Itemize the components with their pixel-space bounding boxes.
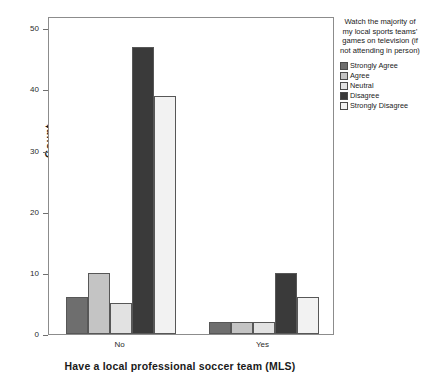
y-tick-mark [43, 90, 48, 91]
legend-swatch-icon [340, 102, 348, 110]
plot-area [48, 17, 334, 335]
y-tick-mark [43, 274, 48, 275]
legend-swatch-icon [340, 72, 348, 80]
bar-chart: Count 01020304050 NoYes Have a local pro… [0, 0, 422, 384]
y-tick: 30 [0, 152, 48, 153]
bar [110, 303, 132, 334]
legend-item: Strongly Disagree [340, 101, 420, 110]
x-category-label: No [80, 340, 160, 349]
legend: Watch the majority of my local sports te… [340, 17, 420, 110]
legend-swatch-icon [340, 92, 348, 100]
legend-title: Watch the majority of my local sports te… [340, 17, 420, 55]
legend-item: Strongly Agree [340, 61, 420, 70]
bar [132, 47, 154, 334]
legend-swatch-icon [340, 82, 348, 90]
y-tick: 10 [0, 274, 48, 275]
y-tick-label: 40 [30, 84, 39, 95]
bar [88, 273, 110, 334]
bar [297, 297, 319, 334]
legend-items: Strongly AgreeAgreeNeutralDisagreeStrong… [340, 61, 420, 110]
y-tick: 50 [0, 29, 48, 30]
y-tick-label: 20 [30, 207, 39, 218]
y-tick: 20 [0, 213, 48, 214]
y-tick-label: 50 [30, 23, 39, 34]
y-tick-label: 10 [30, 268, 39, 279]
x-axis-title: Have a local professional soccer team (M… [20, 360, 340, 372]
bar [275, 273, 297, 334]
y-tick-mark [43, 29, 48, 30]
legend-item-label: Strongly Disagree [350, 101, 408, 110]
legend-item: Neutral [340, 81, 420, 90]
bar [209, 322, 231, 334]
bar [253, 322, 275, 334]
legend-item-label: Neutral [350, 81, 374, 90]
y-tick: 40 [0, 90, 48, 91]
y-tick: 0 [0, 335, 48, 336]
bar [154, 96, 176, 335]
y-tick-label: 0 [35, 329, 39, 340]
y-tick-label: 30 [30, 146, 39, 157]
y-tick-mark [43, 152, 48, 153]
legend-swatch-icon [340, 62, 348, 70]
legend-item: Disagree [340, 91, 420, 100]
bar [66, 297, 88, 334]
y-tick-mark [43, 213, 48, 214]
legend-item: Agree [340, 71, 420, 80]
bar [231, 322, 253, 334]
x-category-label: Yes [223, 340, 303, 349]
legend-item-label: Strongly Agree [350, 61, 398, 70]
legend-item-label: Agree [350, 71, 369, 80]
legend-item-label: Disagree [350, 91, 379, 100]
y-tick-mark [43, 335, 48, 336]
bars-layer [49, 18, 333, 334]
